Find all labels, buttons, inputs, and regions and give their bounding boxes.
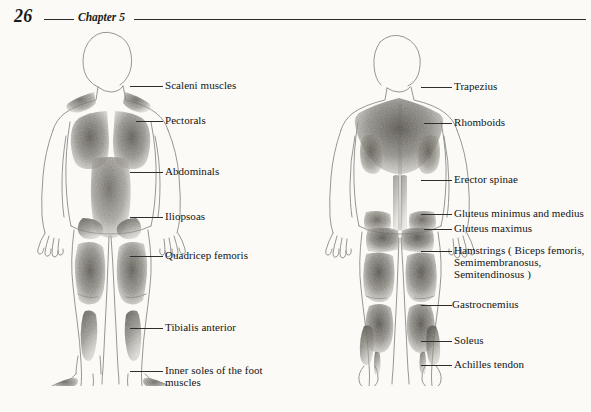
textbook-page: 26 Chapter 5 — [0, 0, 591, 412]
leader-line — [130, 371, 163, 372]
leader-line — [421, 305, 452, 306]
chapter-label: Chapter 5 — [78, 11, 125, 23]
muscle-label: Erector spinae — [454, 174, 518, 186]
muscle-label: Abdominals — [165, 166, 219, 178]
muscle-label: Soleus — [454, 335, 484, 347]
muscle-label: Gluteus minimus and medius — [454, 208, 584, 220]
header-rule-right — [134, 19, 586, 20]
leader-line — [424, 229, 452, 230]
muscle-label: Trapezius — [454, 81, 497, 93]
leader-line — [130, 256, 163, 257]
leader-line — [421, 251, 452, 252]
muscle-label: Iliopsoas — [165, 211, 205, 223]
leader-line — [130, 86, 163, 87]
rear-view-figure: b. Rear View — [300, 26, 550, 386]
muscle-label: Achilles tendon — [454, 359, 524, 371]
leader-line — [130, 172, 163, 173]
muscle-label: Gluteus maximus — [454, 223, 532, 235]
muscle-label: Pectorals — [165, 115, 206, 127]
muscle-label: Rhomboids — [454, 117, 505, 129]
muscle-label: Scaleni muscles — [165, 80, 236, 92]
leader-line — [421, 180, 452, 181]
leader-line — [424, 123, 452, 124]
rear-view-body-illustration — [300, 26, 550, 386]
leader-line — [130, 217, 163, 218]
leader-line — [421, 365, 452, 366]
leader-line — [421, 214, 452, 215]
page-number: 26 — [14, 6, 33, 27]
muscle-label: Hamstrings ( Biceps femoris, Semimembran… — [454, 245, 584, 280]
leader-line — [136, 121, 163, 122]
leader-line — [130, 328, 163, 329]
muscle-label: Tibialis anterior — [165, 322, 236, 334]
muscle-label: Gastrocnemius — [452, 299, 519, 311]
header-rule-left — [44, 19, 74, 20]
muscle-label: Inner soles of the foot muscles — [165, 365, 263, 389]
muscle-label: Quadricep femoris — [165, 250, 248, 262]
leader-line — [421, 341, 452, 342]
leader-line — [421, 87, 452, 88]
